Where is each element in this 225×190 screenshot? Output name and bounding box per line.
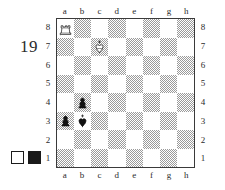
board-square-d1 — [108, 149, 125, 168]
board-square-a4 — [57, 93, 74, 112]
rank-label-right-6: 6 — [198, 56, 208, 75]
file-label-bottom-g: g — [160, 171, 177, 180]
board-square-f1 — [143, 149, 160, 168]
board-square-d6 — [108, 56, 125, 75]
board-square-g1 — [160, 149, 177, 168]
file-label-bottom-e: e — [126, 171, 143, 180]
file-label-top-h: h — [178, 7, 195, 16]
board-square-a8 — [57, 19, 74, 38]
color-key-white-square — [11, 151, 24, 164]
board-square-c7 — [91, 38, 108, 57]
board-square-f6 — [143, 56, 160, 75]
board-square-a2 — [57, 130, 74, 149]
board-square-g5 — [160, 75, 177, 94]
board-square-g2 — [160, 130, 177, 149]
board-square-b5 — [74, 75, 91, 94]
board-square-h7 — [177, 38, 194, 57]
board-square-g7 — [160, 38, 177, 57]
board-square-f7 — [143, 38, 160, 57]
board-square-b6 — [74, 56, 91, 75]
board-square-a5 — [57, 75, 74, 94]
board-square-e4 — [126, 93, 143, 112]
board-square-a7 — [57, 38, 74, 57]
rank-label-left-6: 6 — [43, 56, 53, 75]
rank-label-right-4: 4 — [198, 93, 208, 112]
file-label-top-c: c — [91, 7, 108, 16]
board-square-c5 — [91, 75, 108, 94]
board-square-c1 — [91, 149, 108, 168]
board-square-c3 — [91, 112, 108, 131]
rank-label-left-7: 7 — [43, 37, 53, 56]
rank-label-right-5: 5 — [198, 74, 208, 93]
board-square-d3 — [108, 112, 125, 131]
board-square-h4 — [177, 93, 194, 112]
board-square-b1 — [74, 149, 91, 168]
board-square-d7 — [108, 38, 125, 57]
file-label-bottom-a: a — [56, 171, 73, 180]
board-square-e5 — [126, 75, 143, 94]
board-square-e1 — [126, 149, 143, 168]
problem-number: 19 — [12, 37, 46, 56]
board-square-f4 — [143, 93, 160, 112]
piece-black-pawn-b4 — [74, 93, 91, 112]
board-square-h8 — [177, 19, 194, 38]
board-square-e2 — [126, 130, 143, 149]
rank-label-right-8: 8 — [198, 18, 208, 37]
file-label-bottom-f: f — [143, 171, 160, 180]
file-label-top-f: f — [143, 7, 160, 16]
board-square-c6 — [91, 56, 108, 75]
board-square-f2 — [143, 130, 160, 149]
piece-white-king-c7 — [91, 38, 108, 57]
board-square-a1 — [57, 149, 74, 168]
board-square-d8 — [108, 19, 125, 38]
board-square-c2 — [91, 130, 108, 149]
rank-label-right-1: 1 — [198, 149, 208, 168]
file-label-top-g: g — [160, 7, 177, 16]
piece-black-king-b3 — [74, 112, 91, 131]
file-label-bottom-d: d — [108, 171, 125, 180]
board-square-e7 — [126, 38, 143, 57]
board-square-e6 — [126, 56, 143, 75]
color-key — [11, 151, 45, 166]
file-label-top-d: d — [108, 7, 125, 16]
board-square-g3 — [160, 112, 177, 131]
rank-label-left-3: 3 — [43, 112, 53, 131]
board-area: abcdefgh abcdefgh 87654321 87654321 — [55, 17, 196, 169]
board-square-c4 — [91, 93, 108, 112]
board-square-h5 — [177, 75, 194, 94]
board-square-d4 — [108, 93, 125, 112]
rank-label-left-2: 2 — [43, 131, 53, 150]
board-square-g6 — [160, 56, 177, 75]
board-square-b2 — [74, 130, 91, 149]
rank-label-left-4: 4 — [43, 93, 53, 112]
file-label-bottom-c: c — [91, 171, 108, 180]
board-square-g8 — [160, 19, 177, 38]
rank-label-left-8: 8 — [43, 18, 53, 37]
board-square-b4 — [74, 93, 91, 112]
rank-label-left-5: 5 — [43, 74, 53, 93]
file-label-top-b: b — [73, 7, 90, 16]
file-label-top-a: a — [56, 7, 73, 16]
board-square-b8 — [74, 19, 91, 38]
file-label-top-e: e — [126, 7, 143, 16]
board-square-b3 — [74, 112, 91, 131]
rank-label-right-3: 3 — [198, 112, 208, 131]
board-square-g4 — [160, 93, 177, 112]
board-square-f5 — [143, 75, 160, 94]
board-square-h3 — [177, 112, 194, 131]
file-label-bottom-h: h — [178, 171, 195, 180]
board-square-c8 — [91, 19, 108, 38]
board-square-a6 — [57, 56, 74, 75]
file-label-bottom-b: b — [73, 171, 90, 180]
rank-label-right-2: 2 — [198, 131, 208, 150]
board-square-h2 — [177, 130, 194, 149]
rank-label-left-1: 1 — [43, 149, 53, 168]
chess-diagram: 19 abcdefgh abcdefgh 87654321 87654321 — [0, 0, 225, 190]
board-square-e8 — [126, 19, 143, 38]
board-square-d5 — [108, 75, 125, 94]
chess-board — [56, 18, 195, 168]
rank-label-right-7: 7 — [198, 37, 208, 56]
board-square-e3 — [126, 112, 143, 131]
board-square-h1 — [177, 149, 194, 168]
piece-white-rook-a8 — [57, 19, 74, 38]
